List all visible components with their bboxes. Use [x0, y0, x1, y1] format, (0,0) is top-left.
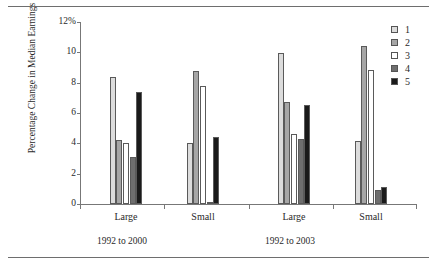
legend-swatch-icon: [391, 78, 398, 85]
x-axis-panel-label: 1992 to 2000: [52, 236, 192, 247]
chart-legend: 12345: [391, 23, 435, 88]
legend-swatch-icon: [391, 52, 398, 59]
legend-swatch-icon: [391, 65, 398, 72]
y-axis-title: Percentage Change in Median Earnings: [26, 0, 38, 158]
y-axis-tick-label: 2: [42, 169, 76, 179]
x-axis-category-label: Large: [86, 211, 166, 223]
legend-item-label: 2: [405, 38, 410, 48]
x-axis-tick: [333, 204, 334, 209]
bar: [110, 77, 116, 204]
figure-container: 12%1086420 Percentage Change in Median E…: [0, 0, 437, 269]
bar: [298, 139, 304, 204]
bar: [136, 92, 142, 204]
bar: [361, 46, 367, 204]
y-axis-tick-label: 0: [42, 199, 76, 209]
bar-group: [278, 22, 310, 204]
plot-area: [80, 22, 416, 204]
y-axis-tick-label: 10: [42, 47, 76, 57]
bar: [381, 187, 387, 204]
bar-group: [355, 22, 387, 204]
bar: [207, 202, 213, 204]
bar: [130, 157, 136, 204]
x-axis-tick: [80, 204, 81, 209]
legend-swatch-icon: [391, 26, 398, 33]
bar: [200, 86, 206, 204]
x-axis-tick: [164, 204, 165, 209]
bar: [291, 134, 297, 204]
legend-swatch-icon: [391, 39, 398, 46]
legend-item[interactable]: 5: [391, 75, 435, 88]
x-axis-panel-label: 1992 to 2003: [220, 236, 360, 247]
legend-item[interactable]: 4: [391, 62, 435, 75]
legend-item[interactable]: 1: [391, 23, 435, 36]
bar-group: [187, 22, 219, 204]
legend-item-label: 5: [405, 77, 410, 87]
y-axis-tick-labels: 12%1086420: [38, 0, 76, 269]
bar: [304, 105, 310, 204]
bar: [375, 190, 381, 204]
x-axis-category-label: Small: [163, 211, 243, 223]
bar: [278, 53, 284, 204]
legend-item-label: 1: [405, 25, 410, 35]
legend-item-label: 4: [405, 64, 410, 74]
bar: [123, 143, 129, 204]
y-axis-tick-label: 12%: [42, 17, 76, 27]
y-axis-tick-label: 8: [42, 78, 76, 88]
bar: [193, 71, 199, 204]
bar: [116, 140, 122, 204]
bar: [284, 102, 290, 204]
bar: [187, 143, 193, 204]
bar: [213, 137, 219, 204]
x-axis-tick: [249, 204, 250, 209]
y-axis-tick-label: 4: [42, 138, 76, 148]
legend-item[interactable]: 2: [391, 36, 435, 49]
y-axis-tick-label: 6: [42, 108, 76, 118]
bar: [368, 70, 374, 204]
bar-group: [110, 22, 142, 204]
legend-item[interactable]: 3: [391, 49, 435, 62]
legend-item-label: 3: [405, 51, 410, 61]
x-axis-category-label: Large: [254, 211, 334, 223]
x-axis-category-label: Small: [331, 211, 411, 223]
x-axis-tick: [416, 204, 417, 209]
bar: [355, 141, 361, 204]
x-axis-line: [80, 204, 416, 205]
